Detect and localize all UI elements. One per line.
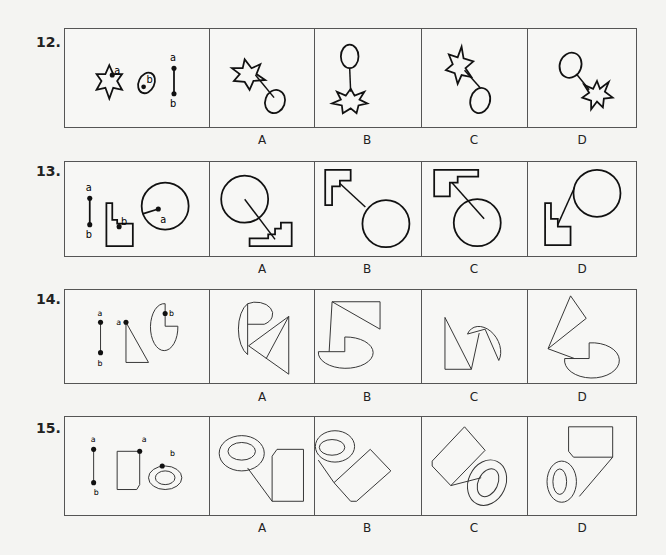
label-a: a	[142, 435, 147, 444]
option-label-c: C	[459, 521, 489, 535]
option-b-figure	[315, 417, 421, 515]
seg-label-b: b	[98, 359, 103, 368]
question-12-option-d[interactable]	[527, 29, 636, 127]
option-c-figure	[422, 29, 528, 127]
question-13-option-b[interactable]	[314, 162, 421, 256]
option-c-figure	[422, 417, 528, 515]
option-d-figure	[528, 417, 636, 515]
option-c-figure	[422, 290, 528, 383]
option-label-c: C	[459, 390, 489, 404]
question-15-option-c[interactable]	[421, 417, 528, 515]
option-d-figure	[528, 29, 636, 127]
question-number-14: 14.	[36, 291, 61, 307]
question-number-15: 15.	[36, 420, 61, 436]
option-label-b: B	[352, 390, 382, 404]
option-label-a: A	[247, 390, 277, 404]
question-15-row: a b a b	[64, 416, 637, 516]
question-13-row: a b b a	[64, 161, 637, 257]
question-14-option-c[interactable]	[421, 290, 528, 383]
question-15-option-b[interactable]	[314, 417, 421, 515]
question-number-12: 12.	[36, 34, 61, 50]
option-b-figure	[315, 162, 421, 256]
seg-label-b: b	[86, 229, 92, 240]
question-13-option-c[interactable]	[421, 162, 528, 256]
option-a-figure	[210, 417, 314, 515]
seg-label-a: a	[170, 52, 176, 63]
option-a-figure	[210, 162, 314, 256]
question-13-given: a b b a	[65, 162, 209, 256]
option-label-a: A	[247, 133, 277, 147]
question-15-option-d[interactable]	[527, 417, 636, 515]
question-14-given: a b a b	[65, 290, 209, 383]
label-a: a	[160, 214, 166, 225]
question-14-option-b[interactable]	[314, 290, 421, 383]
question-15-option-a[interactable]	[209, 417, 314, 515]
question-15-given-figure: a b a b	[65, 417, 209, 515]
question-13-option-a[interactable]	[209, 162, 314, 256]
question-14-option-a[interactable]	[209, 290, 314, 383]
option-d-figure	[528, 290, 636, 383]
question-12-option-c[interactable]	[421, 29, 528, 127]
question-15-given: a b a b	[65, 417, 209, 515]
option-label-d: D	[567, 133, 597, 147]
question-12-option-b[interactable]	[314, 29, 421, 127]
seg-label-a: a	[98, 309, 103, 318]
question-12-given: a b a b	[65, 29, 209, 127]
option-label-a: A	[247, 262, 277, 276]
option-label-b: B	[352, 521, 382, 535]
question-12-row: a b a b	[64, 28, 637, 128]
seg-label-a: a	[86, 182, 92, 193]
label-b: b	[170, 449, 175, 458]
question-14-option-d[interactable]	[527, 290, 636, 383]
option-a-figure	[210, 290, 314, 383]
label-a: a	[116, 318, 121, 327]
seg-label-a: a	[91, 435, 96, 444]
seg-label-b: b	[170, 98, 176, 109]
option-a-figure	[210, 29, 314, 127]
option-label-b: B	[352, 133, 382, 147]
option-b-figure	[315, 29, 421, 127]
label-b: b	[169, 309, 174, 318]
option-label-c: C	[459, 262, 489, 276]
question-13-option-d[interactable]	[527, 162, 636, 256]
option-label-d: D	[567, 521, 597, 535]
label-a: a	[114, 65, 120, 76]
option-b-figure	[315, 290, 421, 383]
question-13-given-figure: a b b a	[65, 162, 209, 256]
label-b: b	[121, 216, 127, 227]
option-label-d: D	[567, 390, 597, 404]
option-label-a: A	[247, 521, 277, 535]
option-label-d: D	[567, 262, 597, 276]
option-d-figure	[528, 162, 636, 256]
seg-label-b: b	[94, 488, 99, 497]
option-c-figure	[422, 162, 528, 256]
question-12-option-a[interactable]	[209, 29, 314, 127]
question-14-given-figure: a b a b	[65, 290, 209, 383]
question-number-13: 13.	[36, 163, 61, 179]
question-12-given-figure: a b a b	[65, 29, 209, 127]
question-14-row: a b a b	[64, 289, 637, 384]
label-b: b	[147, 74, 153, 85]
option-label-b: B	[352, 262, 382, 276]
option-label-c: C	[459, 133, 489, 147]
